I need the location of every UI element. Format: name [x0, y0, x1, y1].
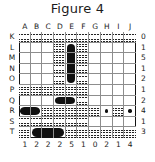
grid-cell-IM[interactable]: [113, 53, 125, 64]
grid-cell-FS[interactable]: [77, 117, 89, 128]
grid-cell-JN[interactable]: [124, 64, 136, 75]
grid-cell-DQ[interactable]: [54, 96, 66, 107]
grid-cell-BQ[interactable]: [31, 96, 43, 107]
grid-cell-DL[interactable]: [54, 43, 66, 54]
grid-cell-HT[interactable]: [101, 127, 113, 138]
grid-cell-EQ[interactable]: [66, 96, 78, 107]
grid-cell-EN[interactable]: [66, 64, 78, 75]
grid-cell-DO[interactable]: [54, 74, 66, 85]
grid-cell-GO[interactable]: [89, 74, 101, 85]
grid-cell-FM[interactable]: [77, 53, 89, 64]
grid-cell-EP[interactable]: [66, 85, 78, 96]
grid-cell-JK[interactable]: [124, 32, 136, 43]
grid-cell-HQ[interactable]: [101, 96, 113, 107]
grid-cell-JT[interactable]: [124, 127, 136, 138]
grid-cell-CN[interactable]: [42, 64, 54, 75]
grid-cell-CS[interactable]: [42, 117, 54, 128]
grid-cell-DN[interactable]: [54, 64, 66, 75]
grid-cell-HM[interactable]: [101, 53, 113, 64]
grid-cell-GR[interactable]: [89, 106, 101, 117]
grid-cell-AO[interactable]: [19, 74, 31, 85]
grid-cell-FT[interactable]: [77, 127, 89, 138]
grid-cell-JS[interactable]: [124, 117, 136, 128]
grid-cell-EK[interactable]: [66, 32, 78, 43]
grid-cell-CL[interactable]: [42, 43, 54, 54]
grid-cell-JP[interactable]: [124, 85, 136, 96]
grid-cell-IN[interactable]: [113, 64, 125, 75]
grid-cell-BK[interactable]: [31, 32, 43, 43]
grid-cell-BL[interactable]: [31, 43, 43, 54]
grid-cell-CR[interactable]: [42, 106, 54, 117]
grid-cell-AQ[interactable]: [19, 96, 31, 107]
grid-cell-JM[interactable]: [124, 53, 136, 64]
grid-cell-BT[interactable]: [31, 127, 43, 138]
grid-cell-AM[interactable]: [19, 53, 31, 64]
grid-cell-FQ[interactable]: [77, 96, 89, 107]
grid-cell-GQ[interactable]: [89, 96, 101, 107]
grid-cell-AT[interactable]: [19, 127, 31, 138]
grid-cell-IT[interactable]: [113, 127, 125, 138]
grid-cell-CO[interactable]: [42, 74, 54, 85]
grid-cell-DK[interactable]: [54, 32, 66, 43]
grid-cell-HR[interactable]: [101, 106, 113, 117]
grid-cell-IK[interactable]: [113, 32, 125, 43]
grid-cell-DP[interactable]: [54, 85, 66, 96]
grid-cell-CQ[interactable]: [42, 96, 54, 107]
grid-cell-AL[interactable]: [19, 43, 31, 54]
grid-cell-DM[interactable]: [54, 53, 66, 64]
grid-cell-HL[interactable]: [101, 43, 113, 54]
grid-cell-BN[interactable]: [31, 64, 43, 75]
grid-cell-JQ[interactable]: [124, 96, 136, 107]
grid-cell-CP[interactable]: [42, 85, 54, 96]
grid-cell-DS[interactable]: [54, 117, 66, 128]
grid-cell-DR[interactable]: [54, 106, 66, 117]
grid-cell-JO[interactable]: [124, 74, 136, 85]
grid-cell-AP[interactable]: [19, 85, 31, 96]
grid-cell-HN[interactable]: [101, 64, 113, 75]
grid-cell-ET[interactable]: [66, 127, 78, 138]
grid-cell-JL[interactable]: [124, 43, 136, 54]
grid-cell-FL[interactable]: [77, 43, 89, 54]
grid-cell-JR[interactable]: [124, 106, 136, 117]
grid-cell-IS[interactable]: [113, 117, 125, 128]
grid-cell-IO[interactable]: [113, 74, 125, 85]
grid-cell-IP[interactable]: [113, 85, 125, 96]
grid-cell-BO[interactable]: [31, 74, 43, 85]
grid-cell-FN[interactable]: [77, 64, 89, 75]
grid-cell-HO[interactable]: [101, 74, 113, 85]
grid-cell-AS[interactable]: [19, 117, 31, 128]
grid-cell-HK[interactable]: [101, 32, 113, 43]
grid-cell-FP[interactable]: [77, 85, 89, 96]
grid-cell-AR[interactable]: [19, 106, 31, 117]
grid-cell-HS[interactable]: [101, 117, 113, 128]
grid-cell-GP[interactable]: [89, 85, 101, 96]
grid-cell-ES[interactable]: [66, 117, 78, 128]
grid-cell-FO[interactable]: [77, 74, 89, 85]
grid-cell-GK[interactable]: [89, 32, 101, 43]
grid-cell-FR[interactable]: [77, 106, 89, 117]
grid-cell-IQ[interactable]: [113, 96, 125, 107]
grid-cell-EL[interactable]: [66, 43, 78, 54]
grid-cell-BP[interactable]: [31, 85, 43, 96]
grid-cell-BM[interactable]: [31, 53, 43, 64]
puzzle-grid[interactable]: [19, 32, 136, 138]
grid-cell-AK[interactable]: [19, 32, 31, 43]
grid-cell-GL[interactable]: [89, 43, 101, 54]
grid-cell-BS[interactable]: [31, 117, 43, 128]
grid-cell-GM[interactable]: [89, 53, 101, 64]
grid-cell-EO[interactable]: [66, 74, 78, 85]
grid-cell-GT[interactable]: [89, 127, 101, 138]
grid-cells[interactable]: [19, 32, 136, 138]
grid-cell-IL[interactable]: [113, 43, 125, 54]
grid-cell-DT[interactable]: [54, 127, 66, 138]
grid-cell-GN[interactable]: [89, 64, 101, 75]
grid-cell-EM[interactable]: [66, 53, 78, 64]
grid-cell-CT[interactable]: [42, 127, 54, 138]
grid-cell-AN[interactable]: [19, 64, 31, 75]
grid-cell-CM[interactable]: [42, 53, 54, 64]
grid-cell-FK[interactable]: [77, 32, 89, 43]
grid-cell-HP[interactable]: [101, 85, 113, 96]
grid-cell-GS[interactable]: [89, 117, 101, 128]
grid-cell-BR[interactable]: [31, 106, 43, 117]
grid-cell-CK[interactable]: [42, 32, 54, 43]
